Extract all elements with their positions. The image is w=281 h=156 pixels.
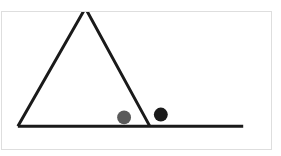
physics-figure <box>2 12 271 149</box>
gray-ball-icon <box>117 111 131 125</box>
black-ball-icon <box>154 108 168 122</box>
diagram-panel <box>1 11 272 150</box>
ramp-triangle-icon <box>18 12 150 126</box>
ramp-triangle-group <box>18 12 150 126</box>
faint-header-text <box>2 0 122 8</box>
diagram-canvas <box>0 0 281 156</box>
